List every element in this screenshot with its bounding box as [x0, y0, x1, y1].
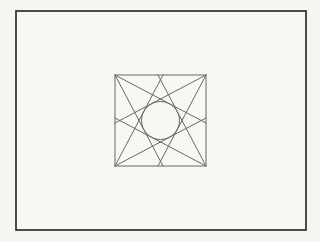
outer-border [16, 11, 306, 230]
aperture-figure [0, 0, 320, 242]
page-canvas [0, 0, 320, 242]
